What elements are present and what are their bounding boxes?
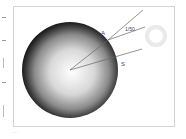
label-s: S	[121, 61, 125, 67]
label-ratio: 1/50	[125, 26, 135, 32]
halo-ring	[146, 26, 166, 46]
label-a: A	[101, 30, 105, 36]
sphere-diagram: A 1/50 S	[0, 0, 186, 139]
figure-caption: ...	[12, 128, 182, 134]
